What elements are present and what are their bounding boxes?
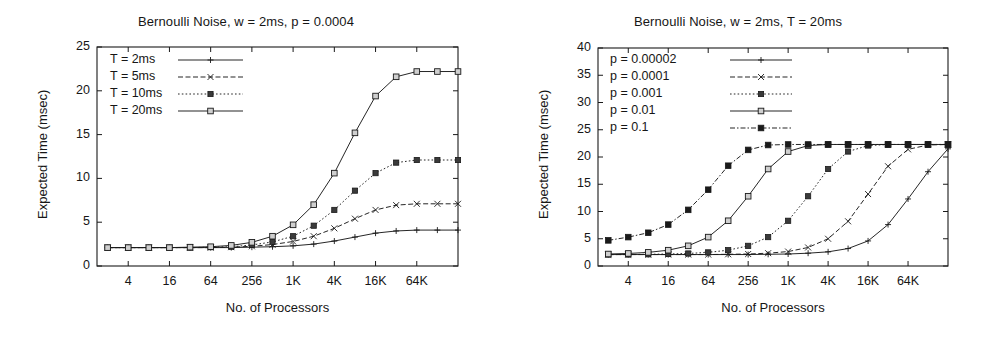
y-axis-tick-label: 10 bbox=[558, 204, 591, 218]
legend-item-label: p = 0.001 bbox=[610, 86, 662, 100]
legend-item-label: p = 0.00002 bbox=[610, 52, 676, 66]
series-p-0-01 bbox=[605, 142, 950, 257]
legend-item-sample bbox=[178, 74, 243, 80]
left-chart-panel: Bernoulli Noise, w = 2ms, p = 0.0004 Exp… bbox=[0, 0, 492, 340]
right-x-axis-label: No. of Processors bbox=[538, 300, 984, 315]
left-x-axis-label: No. of Processors bbox=[37, 300, 518, 315]
y-axis-tick-label: 40 bbox=[558, 40, 591, 54]
right-chart-panel: Bernoulli Noise, w = 2ms, T = 20ms Expec… bbox=[492, 0, 984, 340]
y-axis-tick-label: 15 bbox=[57, 127, 90, 141]
legend-item-sample bbox=[730, 74, 792, 80]
series-p-0-0001 bbox=[605, 141, 951, 257]
x-axis-tick-label: 64K bbox=[392, 274, 442, 288]
legend-item-sample bbox=[730, 91, 792, 96]
legend-item-label: T = 10ms bbox=[110, 86, 162, 100]
series-p-0-001 bbox=[606, 142, 951, 257]
legend-item-label: p = 0.1 bbox=[610, 120, 649, 134]
y-axis-tick-label: 30 bbox=[558, 95, 591, 109]
right-y-axis-label: Expected Time (msec) bbox=[536, 90, 551, 219]
series-p-0-00002 bbox=[605, 146, 951, 258]
series-t-10ms bbox=[105, 157, 461, 250]
legend-item-sample bbox=[178, 108, 243, 114]
y-axis-tick-label: 20 bbox=[558, 149, 591, 163]
y-axis-tick-label: 5 bbox=[57, 214, 90, 228]
legend-item-sample bbox=[730, 57, 792, 63]
y-axis-tick-label: 25 bbox=[558, 122, 591, 136]
legend-item-label: T = 20ms bbox=[110, 103, 162, 117]
legend-item-sample bbox=[178, 91, 243, 96]
y-axis-tick-label: 0 bbox=[558, 258, 591, 272]
y-axis-tick-label: 35 bbox=[558, 67, 591, 81]
legend-item-label: T = 5ms bbox=[110, 69, 155, 83]
y-axis-tick-label: 25 bbox=[57, 39, 90, 53]
y-axis-tick-label: 10 bbox=[57, 170, 90, 184]
y-axis-tick-label: 15 bbox=[558, 176, 591, 190]
legend-item-label: p = 0.0001 bbox=[610, 69, 669, 83]
figure-panels-row: Bernoulli Noise, w = 2ms, p = 0.0004 Exp… bbox=[0, 0, 984, 340]
x-axis-tick-label: 64K bbox=[883, 274, 933, 288]
legend-item-label: p = 0.01 bbox=[610, 103, 656, 117]
y-axis-tick-label: 5 bbox=[558, 231, 591, 245]
legend-item-sample bbox=[178, 57, 243, 63]
y-axis-tick-label: 20 bbox=[57, 83, 90, 97]
series-t-5ms bbox=[105, 201, 461, 251]
legend-item-label: T = 2ms bbox=[110, 52, 155, 66]
y-axis-tick-label: 0 bbox=[57, 258, 90, 272]
legend-item-sample bbox=[730, 108, 792, 114]
left-y-axis-label: Expected Time (msec) bbox=[35, 89, 50, 218]
legend-item-sample bbox=[730, 125, 792, 131]
